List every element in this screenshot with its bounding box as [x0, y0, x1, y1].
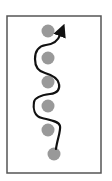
node-6: [48, 148, 61, 161]
node-2: [42, 52, 55, 65]
node-1: [42, 25, 55, 38]
node-3: [42, 76, 55, 89]
diagram-canvas: [0, 0, 112, 181]
node-4: [42, 100, 55, 113]
node-5: [42, 124, 55, 137]
